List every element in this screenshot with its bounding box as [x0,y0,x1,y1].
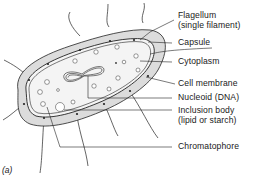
label-cell-membrane-text: Cell membrane [178,79,238,89]
label-cytoplasm: Cytoplasm [178,57,220,67]
label-nucleoid: Nucleoid (DNA) [178,93,239,103]
label-cytoplasm-text: Cytoplasm [178,57,220,67]
label-inclusion-body-line2: (lipid or starch) [178,116,237,126]
label-inclusion-body: Inclusion body (lipid or starch) [178,106,237,125]
label-cell-membrane: Cell membrane [178,79,238,89]
label-capsule-text: Capsule [178,38,210,48]
panel-label: (a) [2,165,12,175]
label-nucleoid-text: Nucleoid (DNA) [178,93,239,103]
label-chromatophore: Chromatophore [178,142,239,152]
label-capsule: Capsule [178,38,210,48]
label-chromatophore-text: Chromatophore [178,142,239,152]
label-flagellum-line2: (single filament) [178,21,240,31]
granule [115,62,117,64]
label-flagellum: Flagellum (single filament) [178,11,240,30]
